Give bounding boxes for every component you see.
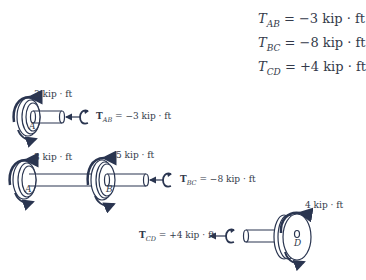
torque-subscript: BC bbox=[187, 179, 197, 187]
applied-torque-a2-label: 3 kip · ft bbox=[34, 152, 72, 162]
applied-torque-b-label: 5 kip · ft bbox=[116, 150, 154, 160]
internal-torque-bc-label: TBC = −8 kip · ft bbox=[180, 174, 256, 187]
torque-value: = −8 kip · ft bbox=[197, 174, 256, 184]
applied-torque-d-label: 4 kip · ft bbox=[305, 200, 343, 210]
internal-torque-ab-label: TAB = −3 kip · ft bbox=[96, 111, 171, 124]
torque-symbol: T bbox=[139, 230, 146, 240]
torque-subscript: CD bbox=[146, 235, 156, 243]
torque-subscript: AB bbox=[103, 116, 112, 124]
torque-symbol: T bbox=[96, 111, 103, 121]
torque-value: = −3 kip · ft bbox=[112, 111, 171, 121]
point-label-a2: A bbox=[25, 184, 32, 194]
torque-symbol: T bbox=[180, 174, 187, 184]
torque-value: = +4 kip · ft bbox=[156, 230, 215, 240]
point-label-a1: A bbox=[29, 121, 36, 131]
point-label-d: D bbox=[294, 238, 301, 248]
applied-torque-a-label: 3 kip · ft bbox=[34, 89, 72, 99]
point-label-b: B bbox=[106, 184, 113, 194]
section-bc-diagram bbox=[10, 158, 172, 205]
internal-torque-cd-label: TCD = +4 kip · ft bbox=[139, 230, 215, 243]
section-ab-diagram bbox=[14, 97, 89, 140]
